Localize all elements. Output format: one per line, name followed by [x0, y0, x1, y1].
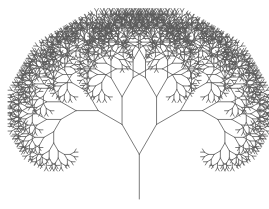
fractal-tree-image: [0, 0, 269, 209]
fractal-tree-drawing: [0, 0, 269, 209]
tree-branches: [8, 9, 269, 171]
branch-paths: [8, 9, 269, 171]
